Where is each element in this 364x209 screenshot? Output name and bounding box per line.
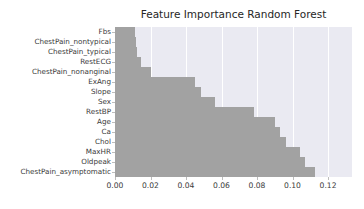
bar xyxy=(115,87,201,97)
y-axis-tick-label: ChestPain_typical xyxy=(48,47,111,57)
y-axis-tick-mark xyxy=(112,172,115,173)
x-axis-tick-mark xyxy=(257,177,258,180)
bar-row xyxy=(115,97,352,107)
bar-row xyxy=(115,67,352,77)
y-axis-tick-label: Sex xyxy=(98,97,111,107)
y-axis-tick-label: ChestPain_asymptomatic xyxy=(21,167,111,177)
bar-row xyxy=(115,147,352,157)
bar xyxy=(115,137,286,147)
chart-title: Feature Importance Random Forest xyxy=(115,6,352,22)
x-axis-tick-mark xyxy=(293,177,294,180)
y-axis-tick-mark xyxy=(112,62,115,63)
y-axis-tick-mark xyxy=(112,152,115,153)
y-axis-tick-mark xyxy=(112,162,115,163)
y-axis-tick-mark xyxy=(112,92,115,93)
bar xyxy=(115,77,195,87)
bar-row xyxy=(115,107,352,117)
x-axis-labels: 0.000.020.040.060.080.100.12 xyxy=(0,180,364,194)
bar xyxy=(115,157,305,167)
bar xyxy=(115,147,300,157)
y-axis-tick-label: ExAng xyxy=(88,77,111,87)
y-axis-tick-label: ChestPain_nonanginal xyxy=(32,67,111,77)
y-axis-tick-mark xyxy=(112,142,115,143)
bar-row xyxy=(115,37,352,47)
bar-row xyxy=(115,47,352,57)
bar xyxy=(115,107,254,117)
bar xyxy=(115,117,275,127)
x-axis-tick-label: 0.08 xyxy=(237,180,277,192)
y-axis-tick-label: Slope xyxy=(91,87,111,97)
x-axis-tick-label: 0.10 xyxy=(273,180,313,192)
x-axis-tick-mark xyxy=(222,177,223,180)
y-axis-tick-label: ChestPain_nontypical xyxy=(34,37,111,47)
y-axis-tick-label: RestBP xyxy=(86,107,111,117)
y-axis-tick-label: Age xyxy=(97,117,111,127)
y-axis-tick-mark xyxy=(112,32,115,33)
bar xyxy=(115,57,141,67)
x-axis-tick-label: 0.06 xyxy=(202,180,242,192)
bar xyxy=(115,67,151,77)
x-axis-tick-label: 0.00 xyxy=(95,180,135,192)
x-axis-tick-mark xyxy=(328,177,329,180)
bar xyxy=(115,127,280,137)
bar-row xyxy=(115,127,352,137)
bar xyxy=(115,97,215,107)
plot-area xyxy=(115,27,352,177)
bar xyxy=(115,167,315,177)
figure-canvas: Feature Importance Random Forest FbsChes… xyxy=(0,0,364,209)
y-axis-tick-label: Ca xyxy=(102,127,111,137)
x-axis-tick-mark xyxy=(186,177,187,180)
bar-row xyxy=(115,117,352,127)
y-axis-tick-mark xyxy=(112,42,115,43)
bar-row xyxy=(115,167,352,177)
y-axis-tick-label: Chol xyxy=(95,137,111,147)
bar-row xyxy=(115,157,352,167)
y-axis-tick-label: Oldpeak xyxy=(81,157,111,167)
bar xyxy=(115,27,135,37)
x-axis-tick-mark xyxy=(151,177,152,180)
bar xyxy=(115,47,137,57)
x-axis-tick-mark xyxy=(115,177,116,180)
y-axis-labels: FbsChestPain_nontypicalChestPain_typical… xyxy=(0,27,111,177)
bar-row xyxy=(115,87,352,97)
bar-row xyxy=(115,57,352,67)
x-axis-tick-label: 0.12 xyxy=(308,180,348,192)
bar-row xyxy=(115,77,352,87)
y-axis-tick-mark xyxy=(112,82,115,83)
y-axis-tick-label: Fbs xyxy=(99,27,111,37)
y-axis-tick-mark xyxy=(112,102,115,103)
y-axis-tick-label: RestECG xyxy=(80,57,111,67)
bar-row xyxy=(115,137,352,147)
y-axis-tick-mark xyxy=(112,122,115,123)
x-axis-tick-label: 0.02 xyxy=(131,180,171,192)
y-axis-tick-label: MaxHR xyxy=(86,147,111,157)
y-axis-tick-mark xyxy=(112,72,115,73)
y-axis-tick-mark xyxy=(112,52,115,53)
bar-row xyxy=(115,27,352,37)
x-axis-tick-label: 0.04 xyxy=(166,180,206,192)
y-axis-tick-mark xyxy=(112,132,115,133)
bar xyxy=(115,37,136,47)
y-axis-tick-mark xyxy=(112,112,115,113)
bar-series xyxy=(115,27,352,177)
